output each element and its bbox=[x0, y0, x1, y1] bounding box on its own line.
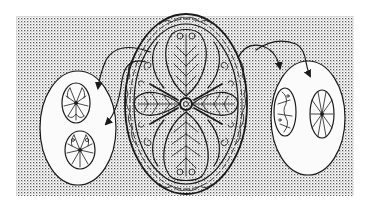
illustration-canvas bbox=[0, 0, 372, 203]
